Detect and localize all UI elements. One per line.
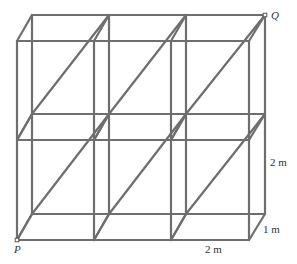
point-q-marker: [263, 13, 267, 17]
dimension-label-width: 2 m: [205, 244, 222, 255]
depth-rod: [17, 214, 32, 240]
depth-rod: [94, 114, 109, 140]
depth-rod: [94, 214, 109, 240]
point-label-q: Q: [271, 10, 279, 21]
lattice-frame: [0, 0, 297, 264]
diagonal-brace: [32, 114, 109, 214]
diagonal-brace: [109, 114, 186, 214]
point-p-marker: [15, 238, 19, 242]
diagonal-brace: [109, 15, 186, 114]
diagonal-brace: [186, 114, 265, 214]
dimension-label-height: 2 m: [270, 157, 287, 168]
depth-rod: [171, 214, 186, 240]
diagonal-brace: [186, 15, 265, 114]
diagonal-brace: [32, 15, 109, 114]
depth-rod: [17, 114, 32, 140]
point-label-p: P: [14, 244, 21, 255]
depth-rod: [171, 114, 186, 140]
dimension-label-depth: 1 m: [263, 224, 280, 235]
depth-rod: [17, 15, 32, 41]
